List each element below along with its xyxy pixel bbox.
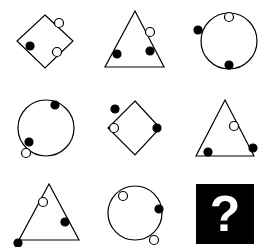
white-dot [150,236,159,245]
black-dot [194,26,202,34]
black-dot [111,105,119,113]
question-box: ? [196,184,254,244]
question-mark: ? [210,189,241,239]
cell-r3c2-circle [108,186,163,245]
cell-r2c1-circle [18,100,74,158]
white-dot [110,124,119,133]
white-dot [53,48,62,57]
black-dot [26,42,34,50]
black-dot [204,148,212,156]
white-dot [55,19,64,28]
black-dot [51,101,59,109]
white-dot [230,122,239,131]
cell-r1c3-circle [194,13,257,70]
white-dot [225,13,234,22]
black-dot [146,47,154,55]
white-dot [146,28,155,37]
black-dot [25,138,33,146]
black-dot [225,61,233,69]
cell-r2c2-diamond [108,101,161,155]
cell-r1c2-triangle [105,11,164,67]
black-dot [113,50,121,58]
cell-r2c3-triangle [196,100,257,156]
black-dot [155,205,163,213]
black-dot [14,239,22,247]
white-dot [39,198,48,207]
cell-r1c1-diamond [17,15,73,68]
cell-r3c1-triangle [14,184,79,247]
black-dot [153,124,161,132]
white-dot [22,149,31,158]
black-dot [249,144,257,152]
black-dot [61,218,69,226]
white-dot [119,192,128,201]
